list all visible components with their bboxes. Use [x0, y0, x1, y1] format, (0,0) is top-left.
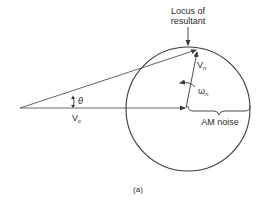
resultant-vector [20, 50, 196, 108]
phasor-svg: Locus of resultant Vn ωn θ Vc AM noise (… [0, 0, 263, 201]
noise-vector-vn [186, 52, 197, 108]
am-noise-brace [188, 106, 250, 115]
locus-label-line2: resultant [171, 16, 206, 26]
theta-label: θ [78, 96, 83, 106]
vc-label: Vc [72, 113, 81, 124]
locus-circle [126, 47, 250, 171]
theta-arrow-top-icon [71, 96, 75, 100]
phasor-diagram: Locus of resultant Vn ωn θ Vc AM noise (… [0, 0, 263, 201]
omega-label: ωn [198, 86, 208, 97]
omega-rotation-arc [180, 83, 195, 88]
figure-caption: (a) [133, 185, 143, 194]
am-noise-label: AM noise [201, 117, 239, 127]
locus-label-line1: Locus of [171, 6, 206, 16]
vn-label: Vn [197, 60, 206, 71]
